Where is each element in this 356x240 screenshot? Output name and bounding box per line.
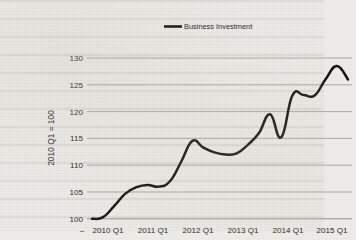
- y-tick-120: 120: [69, 108, 83, 117]
- legend-label-business-investment: Business Investment: [184, 22, 252, 31]
- x-tick-2015-q1: 2015 Q1: [316, 226, 348, 235]
- x-tick-2011-q1: 2011 Q1: [138, 226, 169, 235]
- y-tick-110: 110: [70, 161, 83, 170]
- y-tick-105: 105: [69, 188, 83, 197]
- x-tick-2012-q1: 2012 Q1: [182, 226, 214, 235]
- y-tick-100: 100: [69, 215, 83, 224]
- x-axis-tick-labels: – 2010 Q1 2011 Q1 2012 Q1 2013 Q1 2014 Q…: [80, 226, 348, 235]
- y-tick-125: 125: [69, 81, 83, 90]
- chart-legend: Business Investment: [164, 22, 252, 31]
- gridlines: [87, 58, 352, 192]
- x-axis-leading-dash: –: [80, 226, 85, 235]
- y-axis-title: 2010 Q1 = 100: [46, 110, 56, 166]
- line-chart-figure: Business Investment 130 125 120 115 110 …: [40, 16, 284, 215]
- x-tick-2010-q1: 2010 Q1: [92, 226, 124, 235]
- y-axis-tick-labels: 130 125 120 115 110 105 100: [69, 54, 83, 224]
- x-tick-2014-q1: 2014 Q1: [272, 226, 304, 235]
- y-tick-115: 115: [70, 134, 83, 143]
- data-line-business-investment: [92, 66, 348, 219]
- y-tick-130: 130: [69, 54, 83, 63]
- chart-canvas: Business Investment 130 125 120 115 110 …: [40, 16, 356, 240]
- x-tick-2013-q1: 2013 Q1: [227, 226, 259, 235]
